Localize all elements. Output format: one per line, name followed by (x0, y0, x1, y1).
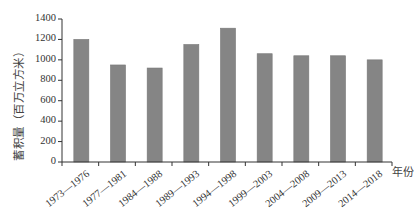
y-tick-label: 800 (22, 74, 56, 84)
bar-2014—2018 (367, 60, 382, 162)
y-tick-label: 1400 (22, 13, 56, 23)
bar-chart: 蓄积量（百万立方米） 0200400600800100012001400 197… (0, 0, 417, 223)
y-tick-label: 400 (22, 115, 56, 125)
bar-1999—2003 (257, 54, 272, 162)
y-tick-label: 1200 (22, 33, 56, 43)
bar-2004—2008 (294, 56, 309, 162)
bar-1973—1976 (74, 39, 89, 162)
bar-1984—1988 (147, 68, 162, 162)
bar-2009—2013 (331, 56, 346, 162)
y-tick-label: 1000 (22, 54, 56, 64)
y-tick-label: 0 (22, 156, 56, 166)
bar-1994—1998 (221, 28, 236, 162)
y-tick-label: 200 (22, 136, 56, 146)
x-axis-unit: 年份 (392, 163, 414, 179)
bar-1977—1981 (111, 65, 126, 162)
y-tick-label: 600 (22, 95, 56, 105)
bar-1989—1993 (184, 45, 199, 162)
